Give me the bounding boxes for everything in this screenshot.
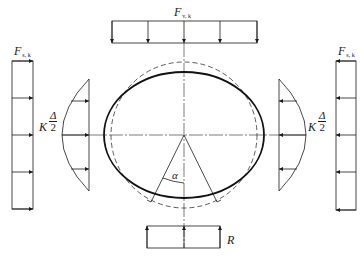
- bottom-reaction: [147, 226, 220, 248]
- left-soil-reaction: [62, 79, 89, 191]
- right-horizontal-load: [336, 61, 356, 210]
- left-reaction-fraction: Δ 2: [49, 110, 57, 133]
- left-two: 2: [49, 122, 57, 133]
- top-load-symbol: F: [174, 5, 181, 19]
- right-load-label: Fs, k: [338, 45, 355, 58]
- bottom-reaction-label: R: [227, 234, 234, 246]
- left-load-symbol: F: [14, 44, 21, 58]
- center-lines: [62, 43, 306, 248]
- right-soil-reaction: [279, 79, 306, 191]
- right-load-symbol: F: [338, 44, 345, 58]
- right-reaction-coef: K: [308, 121, 316, 133]
- left-horizontal-load: [12, 61, 33, 209]
- top-vertical-load: [112, 21, 257, 43]
- angle-label: α: [172, 170, 178, 181]
- right-load-subscript: s, k: [346, 52, 354, 58]
- left-reaction-coef: K: [39, 121, 47, 133]
- top-load-label: Fv, k: [174, 6, 191, 19]
- right-reaction-fraction: Δ 2: [318, 110, 326, 133]
- left-load-subscript: s, k: [22, 52, 30, 58]
- right-two: 2: [318, 122, 326, 133]
- left-load-label: Fs, k: [14, 45, 31, 58]
- top-load-subscript: v, k: [182, 13, 191, 19]
